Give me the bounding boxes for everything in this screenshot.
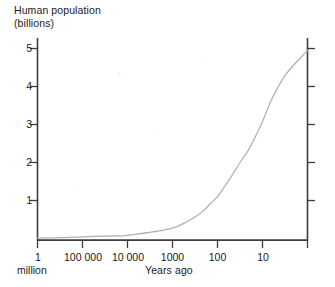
x-axis-ticks	[38, 240, 308, 248]
y-tick-label-3: 3	[16, 118, 32, 130]
y-tick-label-1: 1	[16, 194, 32, 206]
x-tick-label-1-million: 1	[27, 251, 49, 263]
x-tick-label-10: 10	[250, 251, 276, 263]
y-tick-label-4: 4	[16, 80, 32, 92]
x-axis-title: Years ago	[145, 264, 193, 276]
chart-figure: Human population (billions)	[0, 0, 335, 287]
x-tick-label-100: 100	[201, 251, 234, 263]
axes	[37, 38, 308, 241]
x-tick-label-1000: 1000	[152, 251, 193, 263]
plot-area	[0, 0, 335, 287]
x-tick-label-10000: 10 000	[104, 251, 152, 263]
population-curve	[38, 50, 308, 238]
x-tick-label-100000: 100 000	[57, 251, 109, 263]
y-tick-label-2: 2	[16, 156, 32, 168]
y-tick-label-5: 5	[16, 42, 32, 54]
x-tick-label-million-sub: million	[17, 264, 47, 276]
